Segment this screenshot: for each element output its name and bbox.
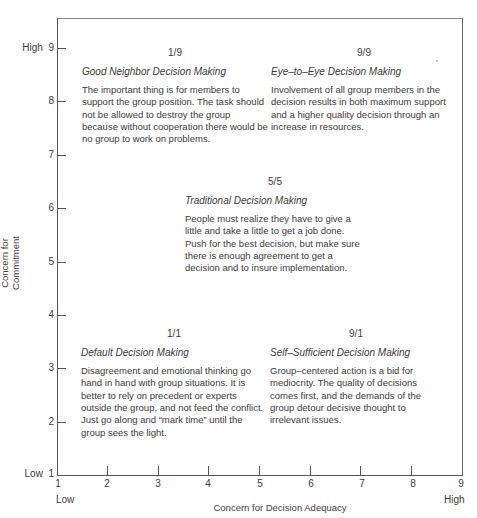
style-title: Default Decision Making xyxy=(81,347,267,359)
style-description: Group–centered action is a bid for medio… xyxy=(270,365,442,427)
y-tick-6 xyxy=(57,208,66,209)
x-label-4: 4 xyxy=(198,479,218,489)
y-tick-7 xyxy=(57,155,66,156)
style-default: 1/1 Default Decision Making Disagreement… xyxy=(81,328,267,439)
x-tick-4 xyxy=(208,466,209,475)
style-good-neighbor: 1/9 Good Neighbor Decision Making The im… xyxy=(82,47,268,146)
style-coord: 1/9 xyxy=(82,47,268,59)
y-label-3: 3 xyxy=(4,363,54,373)
style-title: Eye–to–Eye Decision Making xyxy=(271,66,457,78)
x-tick-3 xyxy=(158,466,159,475)
x-label-6: 6 xyxy=(301,479,321,489)
x-tick-5 xyxy=(259,466,260,475)
y-tick-3 xyxy=(57,368,66,369)
x-label-9: 9 xyxy=(451,479,471,489)
style-description: The important thing is for members to su… xyxy=(82,84,268,146)
style-coord: 1/1 xyxy=(81,328,267,340)
y-low-text: Low xyxy=(25,468,43,479)
y-label-7: 7 xyxy=(4,150,54,160)
print-speck xyxy=(436,60,438,62)
y-label-9: 9 xyxy=(48,42,54,53)
x-label-3: 3 xyxy=(148,479,168,489)
x-label-8: 8 xyxy=(403,479,423,489)
x-tick-6 xyxy=(310,466,311,475)
style-self-sufficient: 9/1 Self–Sufficient Decision Making Grou… xyxy=(270,328,442,427)
x-label-2: 2 xyxy=(97,479,117,489)
y-tick-8 xyxy=(57,101,66,102)
x-axis-title: Concern for Decision Adequacy xyxy=(180,502,380,513)
y-label-8: 8 xyxy=(4,96,54,106)
style-coord: 9/9 xyxy=(271,47,457,59)
y-high-text: High xyxy=(22,42,43,53)
y-axis-title: Concern for Commitment xyxy=(0,213,21,313)
style-title: Good Neighbor Decision Making xyxy=(82,66,268,78)
y-tick-4 xyxy=(57,315,66,316)
style-description: People must realize they have to give a … xyxy=(185,213,365,275)
style-title: Self–Sufficient Decision Making xyxy=(270,347,442,359)
y-label-6: 6 xyxy=(4,203,54,213)
y-low-label: Low 1 xyxy=(4,469,54,479)
y-tick-9 xyxy=(57,48,66,49)
x-label-1: 1 xyxy=(48,479,68,489)
y-tick-2 xyxy=(57,422,66,423)
y-tick-5 xyxy=(57,262,66,263)
x-tick-7 xyxy=(360,466,361,475)
y-label-2: 2 xyxy=(4,417,54,427)
x-tick-8 xyxy=(411,466,412,475)
style-description: Involvement of all group members in the … xyxy=(271,84,457,134)
style-coord: 5/5 xyxy=(185,176,365,188)
x-tick-2 xyxy=(107,466,108,475)
style-eye-to-eye: 9/9 Eye–to–Eye Decision Making Involveme… xyxy=(271,47,457,133)
style-description: Disagreement and emotional thinking go h… xyxy=(81,365,267,439)
y-high-label: High 9 xyxy=(4,43,54,53)
x-label-5: 5 xyxy=(250,479,270,489)
style-title: Traditional Decision Making xyxy=(185,195,365,207)
style-traditional: 5/5 Traditional Decision Making People m… xyxy=(185,176,365,275)
y-label-1: 1 xyxy=(48,468,54,479)
x-label-7: 7 xyxy=(352,479,372,489)
x-high-label: High xyxy=(444,494,465,505)
style-coord: 9/1 xyxy=(270,328,442,340)
x-low-label: Low xyxy=(56,494,74,505)
